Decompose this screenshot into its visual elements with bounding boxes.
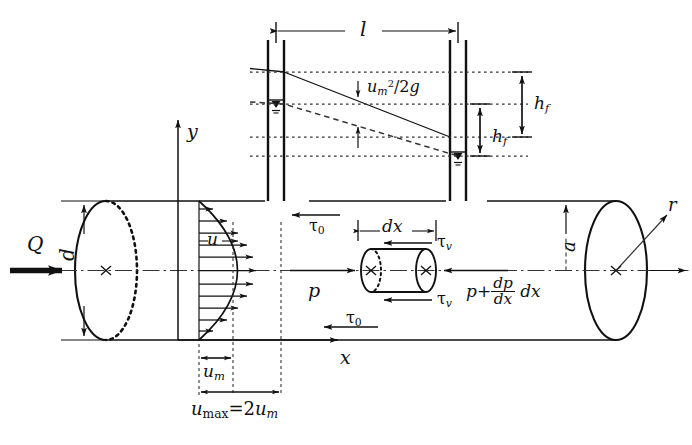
velocity-head-label: um2/2g: [367, 79, 420, 98]
element-shear-label-top: τv: [437, 234, 452, 253]
x-axis-label: x: [340, 348, 351, 367]
y-axis-label: y: [187, 122, 198, 141]
length-label-l: l: [360, 19, 366, 39]
element-length-label-dx: dx: [382, 218, 402, 235]
water-level-marker-left: [269, 100, 283, 113]
pipe-flow-diagram: l um2/2g hf hf y x r Q d a u um umax=2um…: [0, 0, 692, 445]
piezometer-tube-right: [450, 40, 466, 201]
piezometer-tube-left: [268, 40, 284, 201]
element-shear-label-bottom: τv: [437, 291, 452, 310]
radial-coordinate-r: [616, 215, 667, 271]
max-velocity-label: umax=2um: [191, 400, 278, 421]
wall-shear-label-bottom: τ0: [346, 310, 362, 329]
pressure-label-p: p: [308, 281, 320, 300]
head-loss-label-upper: hf: [534, 95, 549, 115]
radial-axis-label: r: [668, 196, 677, 214]
diameter-label-d: d: [57, 248, 77, 261]
wall-shear-label-top: τ0: [309, 218, 325, 237]
length-dimension-l: [276, 22, 458, 43]
energy-grade-line: [250, 69, 450, 138]
radius-label-a: a: [560, 241, 578, 252]
mean-velocity-label: um: [203, 363, 225, 383]
head-loss-label-lower: hf: [492, 128, 507, 148]
velocity-profile: [199, 201, 256, 340]
discharge-label-Q: Q: [27, 234, 43, 254]
head-loss-dimension-lower: [470, 104, 490, 156]
velocity-label-u: u: [207, 231, 218, 248]
pressure-gradient-label: p+dpdx dx: [466, 277, 541, 309]
hydraulic-grade-line: [250, 102, 458, 156]
diagram-vector-layer: [0, 0, 692, 445]
